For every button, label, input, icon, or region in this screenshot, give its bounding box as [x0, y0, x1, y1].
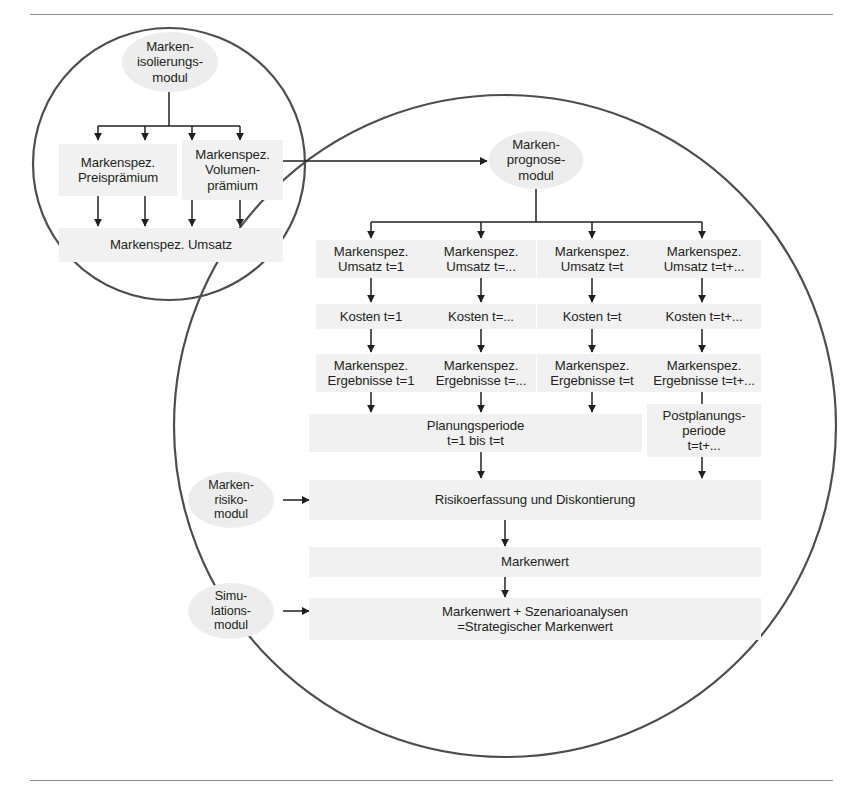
module-forecast[interactable]: Marken- prognose- modul: [489, 131, 583, 189]
node-planning-period[interactable]: Planungsperiode t=1 bis t=t: [309, 414, 642, 452]
node-forecast-revenue-c3[interactable]: Markenspez. Umsatz t=t: [537, 240, 647, 278]
node-forecast-revenue-c2[interactable]: Markenspez. Umsatz t=...: [426, 240, 536, 278]
node-brand-revenue[interactable]: Markenspez. Umsatz: [59, 228, 283, 262]
node-strategic-brand-value[interactable]: Markenwert + Szenarioanalysen =Strategis…: [309, 598, 761, 640]
node-forecast-result-c1[interactable]: Markenspez. Ergebnisse t=1: [316, 354, 426, 392]
node-post-planning-period[interactable]: Postplanungs- periode t=t+...: [647, 404, 761, 457]
module-isolation[interactable]: Marken- isolierungs- modul: [122, 32, 218, 92]
node-forecast-revenue-c4[interactable]: Markenspez. Umsatz t=t+...: [647, 240, 761, 278]
node-forecast-cost-c1[interactable]: Kosten t=1: [316, 304, 426, 329]
module-risk[interactable]: Marken- risiko- modul: [188, 472, 274, 528]
node-risk-discounting[interactable]: Risikoerfassung und Diskontierung: [309, 480, 761, 520]
module-simulation[interactable]: Simu- lations- modul: [188, 583, 274, 639]
connector-layer: [0, 0, 863, 801]
node-price-premium[interactable]: Markenspez. Preisprämium: [59, 144, 177, 196]
node-volume-premium[interactable]: Markenspez. Volumen- prämium: [182, 140, 283, 200]
node-forecast-cost-c2[interactable]: Kosten t=...: [426, 304, 536, 329]
node-forecast-cost-c4[interactable]: Kosten t=t+...: [647, 304, 761, 329]
node-forecast-result-c3[interactable]: Markenspez. Ergebnisse t=t: [537, 354, 647, 392]
figure-canvas: Marken- isolierungs- modul Markenspez. P…: [0, 0, 863, 801]
node-forecast-result-c4[interactable]: Markenspez. Ergebnisse t=t+...: [647, 354, 761, 392]
node-forecast-result-c2[interactable]: Markenspez. Ergebnisse t=...: [426, 354, 536, 392]
node-brand-value[interactable]: Markenwert: [309, 547, 761, 577]
node-forecast-cost-c3[interactable]: Kosten t=t: [537, 304, 647, 329]
node-forecast-revenue-c1[interactable]: Markenspez. Umsatz t=1: [316, 240, 426, 278]
